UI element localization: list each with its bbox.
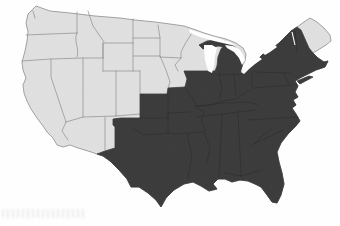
scan-noise-overlay [0,0,340,226]
watermark-smudge [2,209,86,218]
us-states-map [0,0,340,226]
map-canvas [0,0,340,226]
